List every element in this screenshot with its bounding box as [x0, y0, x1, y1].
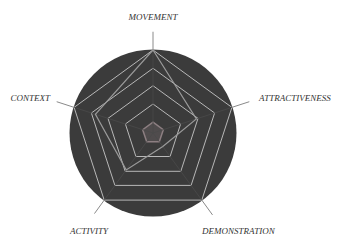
axis-label-attractiveness: ATTRACTIVENESS	[258, 93, 331, 103]
axis-label-movement: MOVEMENT	[128, 12, 179, 22]
axis-leader-line	[202, 200, 213, 215]
axis-label-context: CONTEXT	[10, 93, 51, 103]
axis-label-demonstration: DEMONSTRATION	[201, 226, 276, 236]
radar-chart: MOVEMENT ATTRACTIVENESS DEMONSTRATION AC…	[0, 0, 337, 248]
axis-leader-line	[232, 102, 249, 108]
axis-leader-line	[57, 102, 74, 108]
axis-leader-line	[94, 200, 104, 213]
axis-label-activity: ACTIVITY	[69, 226, 109, 236]
